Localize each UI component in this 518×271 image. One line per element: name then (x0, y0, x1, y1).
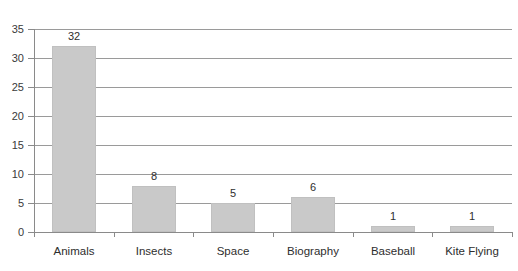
y-axis-tick-label: 30 (0, 53, 24, 64)
gridline (34, 58, 512, 59)
bar-value-label: 1 (452, 211, 492, 222)
bar-chart: 05101520253035 3285611 AnimalsInsectsSpa… (0, 0, 518, 271)
x-axis-category-label: Biography (273, 245, 353, 258)
gridline (34, 87, 512, 88)
x-axis-tick-mark (432, 232, 433, 237)
bar-value-label: 32 (54, 31, 94, 42)
x-axis-category-label: Kite Flying (432, 245, 512, 258)
x-axis-tick-mark (353, 232, 354, 237)
gridline (34, 29, 512, 30)
bar[interactable] (291, 197, 335, 232)
bar[interactable] (211, 203, 255, 232)
gridline (34, 203, 512, 204)
gridline (34, 145, 512, 146)
bar-value-label: 6 (293, 182, 333, 193)
bar[interactable] (450, 226, 494, 232)
y-axis-tick-label: 20 (0, 111, 24, 122)
y-axis-tick-label: 5 (0, 198, 24, 209)
y-axis-tick-label: 10 (0, 169, 24, 180)
x-axis-category-label: Baseball (353, 245, 433, 258)
bar-value-label: 5 (213, 188, 253, 199)
x-axis-category-label: Insects (114, 245, 194, 258)
bar[interactable] (52, 46, 96, 232)
x-axis-category-label: Space (193, 245, 273, 258)
x-axis-tick-mark (34, 232, 35, 237)
bar[interactable] (132, 186, 176, 232)
x-axis-tick-mark (512, 232, 513, 237)
y-axis-line (34, 29, 35, 233)
y-axis-tick-label: 15 (0, 140, 24, 151)
bar-value-label: 1 (373, 211, 413, 222)
y-axis-tick-label: 25 (0, 82, 24, 93)
bar-value-label: 8 (134, 171, 174, 182)
gridline (34, 116, 512, 117)
y-axis-tick-label: 35 (0, 24, 24, 35)
gridline (34, 174, 512, 175)
bar[interactable] (371, 226, 415, 232)
x-axis-category-label: Animals (34, 245, 114, 258)
y-axis-tick-label: 0 (0, 227, 24, 238)
x-axis-tick-mark (273, 232, 274, 237)
chart-title-cropped (0, 0, 518, 4)
x-axis-tick-mark (193, 232, 194, 237)
x-axis-tick-mark (114, 232, 115, 237)
